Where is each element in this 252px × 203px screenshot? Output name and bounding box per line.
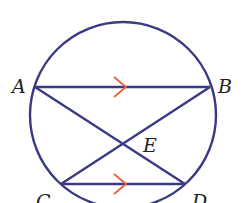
label-c: C bbox=[36, 190, 51, 203]
label-d: D bbox=[191, 190, 207, 203]
label-b: B bbox=[217, 75, 232, 97]
chord-bc bbox=[61, 87, 210, 184]
circle-diagram: A B E C D bbox=[0, 0, 252, 203]
chord-ad bbox=[35, 87, 185, 184]
label-e: E bbox=[142, 134, 157, 156]
label-a: A bbox=[10, 75, 26, 97]
circle bbox=[30, 22, 216, 203]
